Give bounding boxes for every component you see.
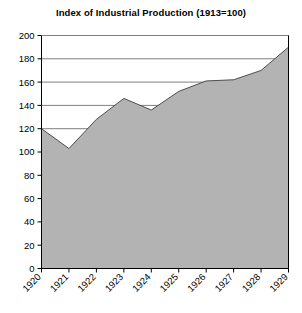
y-tick-label: 80 [24,170,35,181]
y-tick-label: 180 [19,53,35,64]
y-tick-label: 140 [19,100,35,111]
y-tick-label: 60 [24,193,35,204]
area-series [42,47,289,268]
x-tick-label: 1927 [212,271,235,294]
x-axis-ticks: 1920192119221923192419251926192719281929 [20,269,290,294]
x-tick-label: 1926 [185,271,208,294]
x-tick-label: 1925 [157,271,180,294]
industrial-production-area-chart: 020406080100120140160180200 192019211922… [0,0,302,313]
y-tick-label: 20 [24,240,35,251]
x-tick-label: 1921 [48,271,71,294]
x-tick-label: 1923 [103,271,126,294]
x-tick-label: 1928 [240,271,263,294]
y-tick-label: 160 [19,77,35,88]
y-tick-label: 40 [24,216,35,227]
chart-figure: Index of Industrial Production (1913=100… [0,0,302,313]
x-tick-label: 1920 [20,271,43,294]
y-axis-ticks: 020406080100120140160180200 [19,30,42,274]
area-fill-shape [42,47,289,268]
x-tick-label: 1929 [267,271,290,294]
y-tick-label: 100 [19,146,35,157]
y-tick-label: 120 [19,123,35,134]
y-tick-label: 200 [19,30,35,41]
x-tick-label: 1922 [75,271,98,294]
x-tick-label: 1924 [130,271,153,294]
